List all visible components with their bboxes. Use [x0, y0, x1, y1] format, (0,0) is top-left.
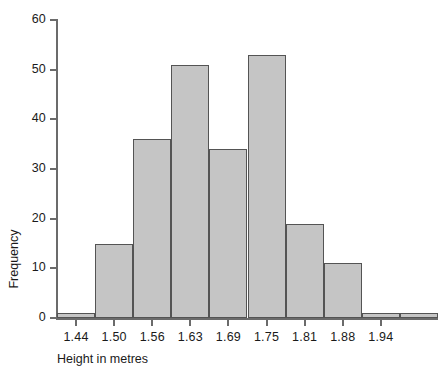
histogram-bar — [400, 313, 438, 318]
histogram-bar — [248, 55, 286, 318]
y-axis-tick — [50, 317, 56, 319]
x-axis-tick — [342, 320, 344, 326]
histogram-bar — [209, 149, 247, 318]
x-axis-tick — [151, 320, 153, 326]
x-axis-tick — [266, 320, 268, 326]
y-axis-tick-labels: 0102030405060 — [0, 0, 46, 380]
y-axis-tick-label: 40 — [2, 112, 46, 124]
y-axis-tick — [50, 267, 56, 269]
histogram-bar — [286, 224, 324, 318]
y-axis-tick — [50, 168, 56, 170]
y-axis-tick — [50, 218, 56, 220]
x-axis-tick — [227, 320, 229, 326]
histogram-bar — [133, 139, 171, 318]
x-axis-tick — [75, 320, 77, 326]
x-axis-title: Height in metres — [57, 352, 148, 366]
x-axis-tick — [189, 320, 191, 326]
x-axis-tick-label: 1.94 — [351, 330, 411, 344]
y-axis-tick-label: 50 — [2, 63, 46, 75]
y-axis-title: Frequency — [7, 219, 21, 299]
y-axis-tick-label: 60 — [2, 13, 46, 25]
y-axis-tick — [50, 69, 56, 71]
histogram-bar — [362, 313, 400, 318]
histogram-bar — [57, 313, 95, 318]
y-axis-tick-label: 30 — [2, 162, 46, 174]
histogram-bar — [171, 65, 209, 318]
y-axis-tick-label: 0 — [2, 311, 46, 323]
histogram-figure: 0102030405060 1.441.501.561.631.691.751.… — [0, 0, 445, 380]
histogram-bar — [324, 263, 362, 318]
x-axis-tick — [113, 320, 115, 326]
x-axis-tick — [304, 320, 306, 326]
plot-area — [57, 20, 438, 318]
histogram-bar — [95, 244, 133, 319]
y-axis-tick — [50, 118, 56, 120]
x-axis-tick — [380, 320, 382, 326]
y-axis-tick — [50, 19, 56, 21]
